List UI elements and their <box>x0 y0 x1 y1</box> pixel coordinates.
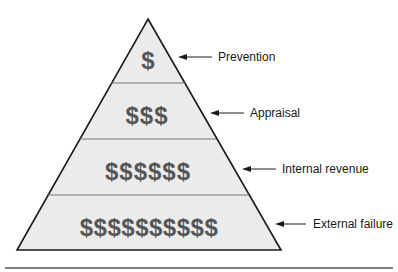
tier-label: Internal revenue <box>282 162 369 176</box>
tier-symbols: $$$$$$$$$$ <box>80 214 219 241</box>
tier-appraisal: $$$ <box>125 102 168 129</box>
arrowhead-icon <box>242 166 251 172</box>
tier-symbols: $ <box>141 47 155 74</box>
arrowhead-icon <box>275 221 284 227</box>
arrowhead-icon <box>210 110 219 116</box>
tier-label: Prevention <box>218 50 275 64</box>
tier-label: External failure <box>313 217 393 231</box>
callout-external-failure: External failure <box>275 217 393 231</box>
tier-prevention: $ <box>141 47 155 74</box>
callout-prevention: Prevention <box>178 50 275 64</box>
tier-symbols: $$$ <box>125 102 168 129</box>
tier-external-failure: $$$$$$$$$$ <box>80 214 219 241</box>
arrowhead-icon <box>178 54 187 60</box>
tier-label: Appraisal <box>250 106 300 120</box>
tier-symbols: $$$$$$ <box>105 158 191 185</box>
pyramid-diagram: $ $$$ $$$$$$ $$$$$$$$$$ Prevention Appra… <box>0 0 398 272</box>
callout-appraisal: Appraisal <box>210 106 300 120</box>
callout-internal-revenue: Internal revenue <box>242 162 369 176</box>
tier-internal-revenue: $$$$$$ <box>105 158 191 185</box>
